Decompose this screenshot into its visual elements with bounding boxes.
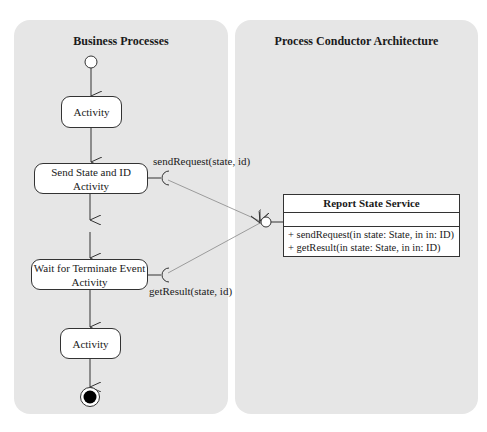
- operation-get-result: + getResult(in state: State, in in: ID): [288, 241, 456, 254]
- class-operations-compartment: + sendRequest(in state: State, in in: ID…: [284, 227, 459, 256]
- socket-get-icon: [162, 268, 169, 282]
- activity-send-state-and-id[interactable]: Send State and ID Activity: [34, 163, 148, 194]
- activity-label-line1: Wait for Terminate Event: [34, 261, 145, 275]
- activity-node[interactable]: Activity: [60, 328, 121, 359]
- socket-send-icon: [162, 171, 169, 185]
- class-attributes-compartment: [284, 213, 459, 227]
- dependency-get: [168, 223, 260, 273]
- class-report-state-service[interactable]: Report State Service + sendRequest(in st…: [283, 194, 460, 257]
- dependency-send: [168, 180, 260, 221]
- activity-wait-for-terminate-event[interactable]: Wait for Terminate Event Activity: [31, 259, 148, 290]
- activity-node[interactable]: Activity: [61, 96, 122, 128]
- class-name: Report State Service: [284, 195, 459, 213]
- activity-label: Activity: [73, 105, 109, 119]
- interface-label-get-result: getResult(state, id): [149, 285, 232, 297]
- provided-interface-icon: [261, 217, 271, 227]
- final-node-center: [84, 391, 97, 404]
- activity-label: Activity: [72, 337, 108, 351]
- activity-label-line1: Send State and ID: [51, 165, 131, 179]
- interface-label-send-request: sendRequest(state, id): [153, 155, 250, 167]
- initial-node: [85, 56, 97, 68]
- operation-send-request: + sendRequest(in state: State, in in: ID…: [288, 228, 456, 241]
- activity-label-line2: Activity: [73, 179, 109, 193]
- activity-label-line2: Activity: [71, 275, 107, 289]
